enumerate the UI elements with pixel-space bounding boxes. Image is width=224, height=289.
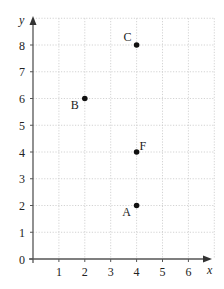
point-label-b: B bbox=[71, 98, 79, 112]
y-tick-label: 4 bbox=[19, 146, 25, 160]
x-tick-label: 2 bbox=[82, 265, 88, 279]
point-c bbox=[134, 42, 140, 48]
x-tick-label: 1 bbox=[56, 265, 62, 279]
y-tick-label: 1 bbox=[19, 226, 25, 240]
y-tick-label: 7 bbox=[19, 65, 25, 79]
y-tick-label: 5 bbox=[19, 119, 25, 133]
scatter-chart: xy123456012345678 ABCF bbox=[0, 0, 224, 289]
axes bbox=[29, 16, 212, 263]
x-tick-label: 5 bbox=[160, 265, 166, 279]
point-f bbox=[134, 149, 140, 155]
x-axis-arrow-icon bbox=[203, 256, 212, 263]
chart-canvas: xy123456012345678 ABCF bbox=[0, 0, 224, 289]
y-axis-arrow-icon bbox=[30, 16, 37, 25]
y-tick-label: 6 bbox=[19, 92, 25, 106]
tick-labels: xy123456012345678 bbox=[18, 13, 213, 279]
x-tick-label: 4 bbox=[134, 265, 140, 279]
point-label-a: A bbox=[122, 205, 131, 219]
data-points: ABCF bbox=[71, 30, 147, 219]
x-tick-label: 6 bbox=[185, 265, 191, 279]
x-axis-label: x bbox=[206, 263, 213, 277]
y-tick-label: 8 bbox=[19, 39, 25, 53]
point-label-c: C bbox=[124, 30, 132, 44]
point-label-f: F bbox=[140, 139, 147, 153]
grid-lines bbox=[33, 18, 214, 259]
y-tick-label: 3 bbox=[19, 172, 25, 186]
point-b bbox=[82, 96, 88, 102]
y-tick-label: 2 bbox=[19, 199, 25, 213]
x-tick-label: 3 bbox=[108, 265, 114, 279]
y-tick-label: 0 bbox=[19, 253, 25, 267]
point-a bbox=[134, 203, 140, 209]
y-axis-label: y bbox=[18, 13, 25, 27]
